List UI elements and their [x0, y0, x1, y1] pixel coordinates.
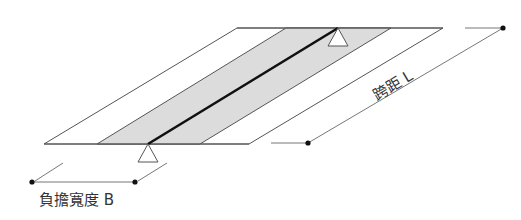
width-label: 負擔寬度 B: [39, 191, 114, 209]
width-dot-start: [29, 179, 34, 184]
span-dot-start: [305, 140, 310, 145]
span-dot-end: [500, 25, 505, 30]
bridge-diagram: 跨距 L 負擔寬度 B: [0, 0, 521, 220]
width-dimension: [29, 163, 167, 185]
support-bottom-icon: [138, 144, 158, 162]
span-label: 跨距 L: [370, 66, 417, 104]
width-dot-end: [132, 179, 137, 184]
